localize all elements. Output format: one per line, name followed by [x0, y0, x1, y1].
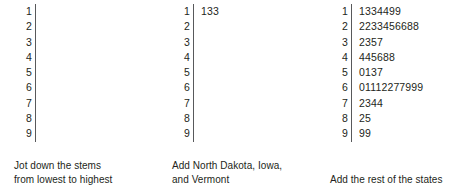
panel-three-states: 1 133 2 3 4 — [160, 0, 320, 192]
leaf-values: 99 — [357, 126, 371, 141]
stem-leaf-divider — [193, 80, 199, 95]
stem-and-leaf-plot: 1 1334499 2 2233456688 3 2357 4 — [330, 0, 452, 142]
plot-rows: 1 1334499 2 2233456688 3 2357 4 — [330, 4, 452, 142]
plot-row: 7 — [172, 96, 320, 111]
stem-value: 3 — [172, 35, 190, 50]
plot-row: 7 2344 — [330, 96, 452, 111]
stem-leaf-divider — [193, 126, 199, 141]
stem-leaf-divider — [193, 96, 199, 111]
stem-value: 1 — [14, 4, 32, 19]
stem-value: 1 — [330, 4, 348, 19]
plot-row: 9 99 — [330, 126, 452, 141]
stem-leaf-divider — [35, 50, 41, 65]
plot-row: 1 1334499 — [330, 4, 452, 19]
stem-value: 5 — [14, 65, 32, 80]
stem-and-leaf-plot: 1 133 2 3 4 — [172, 0, 320, 142]
plot-row: 7 — [14, 96, 160, 111]
stem-value: 5 — [330, 65, 348, 80]
plot-row: 9 — [172, 126, 320, 141]
stem-leaf-divider — [35, 35, 41, 50]
stem-leaf-divider — [35, 111, 41, 126]
stem-leaf-divider — [193, 50, 199, 65]
stem-value: 4 — [14, 50, 32, 65]
panel-caption: Add the rest of the states — [330, 173, 442, 187]
plot-row: 8 — [172, 111, 320, 126]
stem-leaf-divider — [35, 4, 41, 19]
stem-value: 9 — [172, 126, 190, 141]
stem-and-leaf-plot: 1 2 3 4 — [14, 0, 160, 142]
stem-leaf-divider — [35, 19, 41, 34]
stem-leaf-divider — [193, 19, 199, 34]
plot-row: 1 — [14, 4, 160, 19]
plot-row: 6 — [14, 80, 160, 95]
leaf-values: 2357 — [357, 35, 383, 50]
panel-all-states: 1 1334499 2 2233456688 3 2357 4 — [320, 0, 452, 192]
plot-rows: 1 2 3 4 — [14, 4, 160, 142]
stem-value: 4 — [330, 50, 348, 65]
plot-row: 6 — [172, 80, 320, 95]
plot-row: 2 — [14, 19, 160, 34]
leaf-values: 2233456688 — [357, 19, 419, 34]
leaf-values: 01112277999 — [357, 80, 423, 95]
plot-row: 9 — [14, 126, 160, 141]
stem-value: 6 — [330, 80, 348, 95]
plot-row: 4 — [172, 50, 320, 65]
stem-value: 2 — [330, 19, 348, 34]
plot-row: 3 — [14, 35, 160, 50]
stem-value: 7 — [172, 96, 190, 111]
plot-row: 3 2357 — [330, 35, 452, 50]
stem-value: 7 — [330, 96, 348, 111]
stem-value: 6 — [14, 80, 32, 95]
leaf-values: 25 — [357, 111, 371, 126]
leaf-values: 1334499 — [357, 4, 401, 19]
stem-value: 3 — [14, 35, 32, 50]
plot-row: 5 0137 — [330, 65, 452, 80]
plot-row: 5 — [172, 65, 320, 80]
stem-value: 2 — [172, 19, 190, 34]
stem-value: 8 — [172, 111, 190, 126]
stem-value: 9 — [14, 126, 32, 141]
plot-row: 8 — [14, 111, 160, 126]
panel-stems-only: 1 2 3 4 — [0, 0, 160, 192]
stem-leaf-divider — [193, 111, 199, 126]
leaf-values: 2344 — [357, 96, 383, 111]
stem-value: 4 — [172, 50, 190, 65]
plot-row: 3 — [172, 35, 320, 50]
leaf-values: 0137 — [357, 65, 383, 80]
plot-row: 5 — [14, 65, 160, 80]
stem-value: 3 — [330, 35, 348, 50]
plot-row: 2 — [172, 19, 320, 34]
stem-leaf-divider — [193, 35, 199, 50]
plot-row: 4 — [14, 50, 160, 65]
panel-caption: Add North Dakota, Iowa, and Vermont — [172, 159, 282, 186]
stem-leaf-divider — [35, 126, 41, 141]
stem-value: 1 — [172, 4, 190, 19]
plot-row: 1 133 — [172, 4, 320, 19]
stem-leaf-divider — [35, 65, 41, 80]
stem-value: 2 — [14, 19, 32, 34]
leaf-values: 133 — [199, 4, 219, 19]
stem-leaf-divider — [35, 96, 41, 111]
plot-row: 6 01112277999 — [330, 80, 452, 95]
leaf-values: 445688 — [357, 50, 395, 65]
stem-value: 8 — [14, 111, 32, 126]
panel-caption: Jot down the stems from lowest to highes… — [14, 159, 112, 186]
stem-and-leaf-figure: 1 2 3 4 — [0, 0, 452, 192]
stem-value: 8 — [330, 111, 348, 126]
stem-value: 9 — [330, 126, 348, 141]
stem-leaf-divider — [35, 80, 41, 95]
stem-value: 5 — [172, 65, 190, 80]
plot-row: 2 2233456688 — [330, 19, 452, 34]
stem-leaf-divider — [193, 65, 199, 80]
plot-rows: 1 133 2 3 4 — [172, 4, 320, 142]
stem-value: 6 — [172, 80, 190, 95]
stem-value: 7 — [14, 96, 32, 111]
plot-row: 8 25 — [330, 111, 452, 126]
plot-row: 4 445688 — [330, 50, 452, 65]
